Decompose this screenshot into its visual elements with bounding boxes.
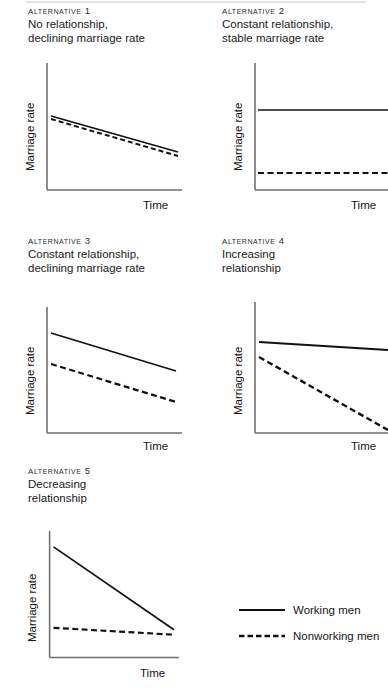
series-working-men-line: [51, 333, 176, 371]
series-working-men-line: [259, 342, 388, 350]
series-nonworking-men-line: [51, 119, 178, 156]
x-axis-label: Time: [143, 199, 168, 211]
series-working-men-line: [54, 547, 174, 630]
series-nonworking-men-line: [54, 628, 174, 635]
legend-item-nonworking-men: Nonworking men: [238, 628, 379, 644]
legend-label-working-men: Working men: [293, 604, 361, 616]
x-axis-label: Time: [140, 667, 165, 679]
legend-label-nonworking-men: Nonworking men: [293, 630, 379, 642]
y-axis-label: Marriage rate: [232, 347, 244, 415]
chart-alternative-3: [0, 230, 194, 460]
chart-alternative-4: [194, 230, 388, 460]
legend-solid-line-swatch: [238, 605, 286, 615]
y-axis-label: Marriage rate: [26, 574, 38, 642]
chart-alternative-2: [194, 0, 388, 230]
series-nonworking-men-line: [259, 357, 388, 430]
legend-dashed-line-swatch: [238, 631, 286, 641]
series-nonworking-men-line: [51, 364, 176, 402]
x-axis-label: Time: [143, 440, 168, 452]
panel-alternative-5: Alternative 5 Decreasing relationship Ma…: [0, 460, 194, 693]
series-working-men-line: [51, 116, 178, 152]
legend-item-working-men: Working men: [238, 602, 361, 618]
chart-legend: Working men Nonworking men: [238, 598, 388, 658]
y-axis-label: Marriage rate: [24, 347, 36, 415]
x-axis-label: Time: [351, 440, 376, 452]
panel-alternative-4: Alternative 4 Increasing relationship Ma…: [194, 230, 388, 460]
panel-alternative-3: Alternative 3 Constant relationship, dec…: [0, 230, 194, 460]
panel-alternative-1: Alternative 1 No relationship, declining…: [0, 0, 194, 230]
figure-page: Alternative 1 No relationship, declining…: [0, 0, 388, 693]
panel-alternative-2: Alternative 2 Constant relationship, sta…: [194, 0, 388, 230]
x-axis-label: Time: [351, 199, 376, 211]
y-axis-label: Marriage rate: [232, 103, 244, 171]
y-axis-label: Marriage rate: [24, 103, 36, 171]
